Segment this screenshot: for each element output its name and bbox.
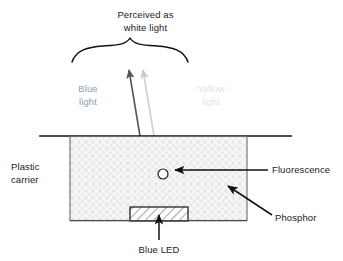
label-blue-led: Blue LED [128, 244, 190, 257]
label-yellow-light: Yellow light [183, 83, 239, 108]
label-plastic-carrier: Plastic carrier [11, 161, 71, 186]
fluorescence-point [158, 169, 168, 179]
label-fluorescence: Fluorescence [272, 164, 343, 177]
label-perceived-white-light: Perceived as white light [73, 9, 218, 34]
diagram-canvas: Perceived as white light Blue light Yell… [0, 0, 343, 261]
perceived-light-brace [72, 38, 188, 62]
label-blue-light: Blue light [63, 83, 113, 108]
label-phosphor: Phosphor [275, 212, 339, 225]
